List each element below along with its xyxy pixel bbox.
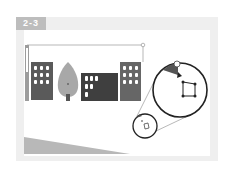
tree — [58, 62, 78, 101]
building-left — [31, 62, 53, 100]
illustration — [0, 0, 234, 173]
ground-triangle — [24, 137, 130, 154]
building-right — [120, 62, 141, 101]
magnifier-small-circle — [133, 114, 157, 138]
selection-bounding-box[interactable] — [27, 43, 145, 62]
building-center — [81, 73, 118, 101]
magnifier-large-circle — [153, 61, 207, 117]
anchor-point-icon — [174, 61, 180, 67]
vertical-scroll-bar[interactable] — [25, 45, 29, 101]
resize-handle-icon — [141, 43, 145, 47]
